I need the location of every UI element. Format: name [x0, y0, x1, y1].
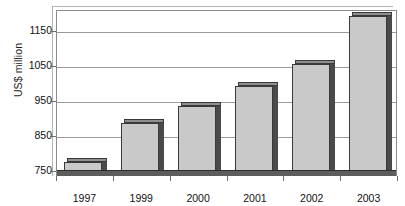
y-axis-tick-mark — [50, 136, 56, 137]
axis-baseline — [57, 170, 396, 171]
bar-side-face — [330, 61, 335, 173]
x-axis-tick-mark — [170, 176, 171, 181]
y-axis-tick-label: 850 — [18, 130, 52, 141]
gridline — [57, 32, 396, 33]
bar-chart: US$ million 75085095010501150 1997199920… — [0, 0, 405, 206]
bar — [292, 64, 330, 173]
y-axis-tick-mark — [50, 31, 56, 32]
y-axis-tick-label: 750 — [18, 165, 52, 176]
bar — [349, 16, 387, 172]
bar — [121, 123, 159, 172]
bar-side-face — [159, 120, 164, 172]
x-axis-tick-label: 1997 — [58, 192, 110, 204]
x-axis-tick-mark — [113, 176, 114, 181]
y-axis-tick-label: 1150 — [18, 25, 52, 36]
y-axis-tick-mark — [50, 101, 56, 102]
bar — [178, 106, 216, 172]
y-axis-tick-mark — [50, 171, 56, 172]
plot-area — [56, 10, 397, 176]
bar-side-face — [216, 103, 221, 172]
bar — [235, 86, 273, 172]
bar-side-face — [387, 13, 392, 172]
x-axis-tick-label: 2000 — [172, 192, 224, 204]
y-axis-tick-label: 1050 — [18, 60, 52, 71]
x-axis-tick-label: 2003 — [343, 192, 395, 204]
x-axis-tick-mark — [56, 176, 57, 181]
x-axis-tick-mark — [340, 176, 341, 181]
gridline — [57, 67, 396, 68]
gridline — [57, 137, 396, 138]
y-axis-tick-label: 950 — [18, 95, 52, 106]
x-axis-tick-label: 1999 — [115, 192, 167, 204]
gridline — [57, 102, 396, 103]
y-axis-tick-mark — [50, 66, 56, 67]
bar-side-face — [273, 83, 278, 172]
x-axis-tick-mark — [283, 176, 284, 181]
x-axis-tick-mark — [227, 176, 228, 181]
x-axis-tick-mark — [397, 176, 398, 181]
y-axis-tick-labels: 75085095010501150 — [16, 0, 52, 206]
x-axis-tick-label: 2002 — [286, 192, 338, 204]
x-axis-tick-label: 2001 — [229, 192, 281, 204]
